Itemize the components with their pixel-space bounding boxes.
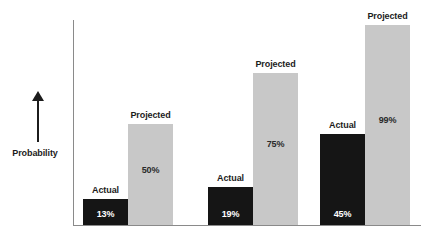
bar-projected-group1: 50% xyxy=(128,124,173,225)
bar-value-label: 45% xyxy=(320,209,365,219)
bar-projected-group2: 75% xyxy=(253,73,298,225)
bar-value-label: 13% xyxy=(83,209,128,219)
bar-caption-projected-group2: Projected xyxy=(247,59,304,69)
bar-actual-group2: 19% xyxy=(208,187,253,225)
plot-area: 13% Actual 50% Projected 19% Actual 75% … xyxy=(0,0,426,240)
bar-caption-actual-group3: Actual xyxy=(314,120,371,130)
bar-caption-actual-group2: Actual xyxy=(202,173,259,183)
bar-projected-group3: 99% xyxy=(365,25,410,225)
bar-caption-actual-group1: Actual xyxy=(77,185,134,195)
bar-value-label: 75% xyxy=(253,139,298,149)
bar-value-label: 99% xyxy=(365,115,410,125)
bar-value-label: 50% xyxy=(128,165,173,175)
bar-value-label: 19% xyxy=(208,209,253,219)
bar-actual-group1: 13% xyxy=(83,199,128,225)
probability-bar-chart: Probability 13% Actual 50% Projected 19%… xyxy=(0,0,426,240)
bar-caption-projected-group1: Projected xyxy=(122,110,179,120)
bar-caption-projected-group3: Projected xyxy=(359,11,416,21)
bar-actual-group3: 45% xyxy=(320,134,365,225)
